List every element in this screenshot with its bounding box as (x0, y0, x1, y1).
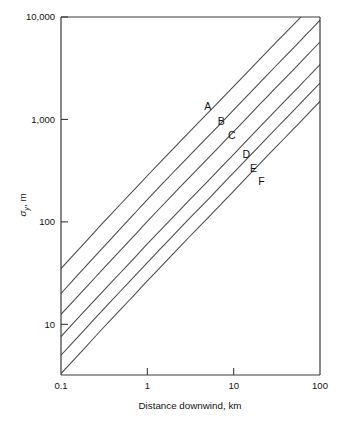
y-tick-label-10: 10 (44, 319, 55, 330)
curve-label-c: C (228, 129, 236, 141)
chart-figure: 101001,00010,000 0.1110100 ABCDEF Distan… (0, 0, 349, 424)
y-tick-label-100: 100 (39, 216, 55, 227)
y-axis-units-m: m (17, 193, 28, 201)
x-axis-title: Distance downwind, km (139, 400, 242, 411)
x-tick-label-1: 1 (145, 380, 150, 391)
plot-background (0, 0, 349, 424)
curve-label-d: D (242, 148, 250, 160)
x-tick-label-100: 100 (312, 380, 328, 391)
x-tick-label-0.1: 0.1 (54, 380, 67, 391)
curve-label-f: F (258, 175, 264, 187)
y-tick-label-1000: 1,000 (31, 114, 55, 125)
curve-label-a: A (204, 100, 211, 112)
sigma-y-log-log-plot: 101001,00010,000 0.1110100 ABCDEF Distan… (0, 0, 349, 424)
x-tick-label-10: 10 (228, 380, 239, 391)
y-tick-label-10000: 10,000 (26, 11, 55, 22)
curve-label-e: E (250, 162, 257, 174)
curve-label-b: B (218, 115, 225, 127)
